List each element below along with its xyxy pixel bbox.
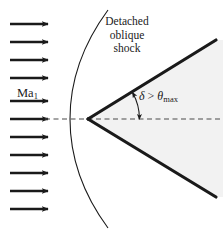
greater-than-operator: > [145, 89, 158, 103]
detached-oblique-shock-diagram: Detached oblique shock Ma1 δ > θmax [0, 0, 223, 231]
mach-base: Ma [17, 86, 34, 100]
shock-label-line-3: shock [92, 42, 162, 56]
theta-subscript: max [163, 94, 178, 104]
flow-arrow-group [10, 24, 48, 209]
shock-label-line-1: Detached [92, 15, 162, 29]
mach-subscript: 1 [34, 91, 38, 101]
mach-number-label: Ma1 [17, 86, 38, 101]
shock-label-line-2: oblique [92, 29, 162, 43]
shock-label: Detached oblique shock [92, 15, 162, 56]
deflection-angle-label: δ > θmax [139, 89, 178, 104]
